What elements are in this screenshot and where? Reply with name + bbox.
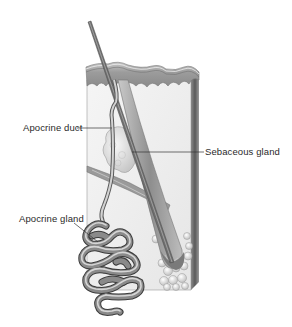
skin-illustration: [0, 0, 292, 327]
label-apocrine-gland: Apocrine gland: [19, 213, 84, 224]
label-sebaceous-gland: Sebaceous gland: [205, 146, 280, 157]
figure-caption-clipped: [0, 320, 292, 327]
label-apocrine-duct: Apocrine duct: [23, 122, 82, 133]
skin-diagram: Apocrine duct Sebaceous gland Apocrine g…: [0, 0, 292, 327]
